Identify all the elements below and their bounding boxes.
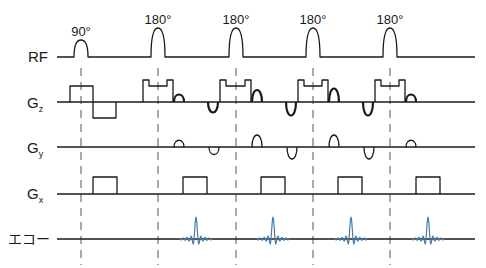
gx-trace <box>57 177 475 194</box>
pulse-label-180-1: 180° <box>145 12 172 27</box>
pulse-sequence-diagram: RF Gz Gy Gx エコー 90° 180° 180° 180° 180° <box>0 0 486 268</box>
echo-signal-3 <box>335 217 367 244</box>
echo-signal-2 <box>257 217 289 244</box>
pulse-label-180-3: 180° <box>300 12 327 27</box>
row-labels: RF Gz Gy Gx エコー <box>8 48 50 247</box>
timing-lines <box>81 68 390 265</box>
pulse-labels: 90° 180° 180° 180° 180° <box>71 12 403 39</box>
gy-trace <box>57 135 475 159</box>
echo-signal-1 <box>180 217 212 244</box>
gz-trace <box>57 80 475 118</box>
pulse-label-180-4: 180° <box>377 12 404 27</box>
echo-signals <box>180 217 444 244</box>
pulse-label-90: 90° <box>71 24 91 39</box>
row-label-gx: Gx <box>27 185 44 205</box>
row-label-echo: エコー <box>8 231 50 247</box>
row-label-gz: Gz <box>27 94 44 114</box>
row-label-gy: Gy <box>27 139 44 159</box>
pulse-label-180-2: 180° <box>223 12 250 27</box>
echo-signal-4 <box>412 217 444 244</box>
rf-trace <box>57 28 475 57</box>
row-label-rf: RF <box>28 48 48 65</box>
